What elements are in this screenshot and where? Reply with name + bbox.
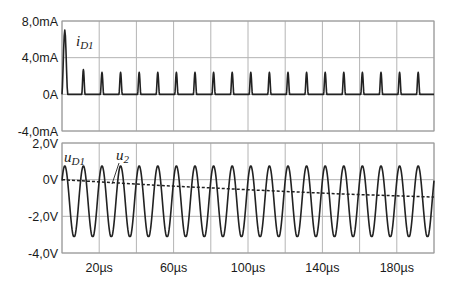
x-tick-label: 180µs bbox=[380, 261, 414, 275]
oscillogram-chart: 8,0mA4,0mA0A-4,0mA2,0V0V-2,0V-4,0V20µs60… bbox=[0, 0, 450, 286]
series-label-u2: u2 bbox=[116, 147, 130, 165]
x-tick-label: 100µs bbox=[231, 261, 265, 275]
y-tick-label: 2,0V bbox=[32, 137, 58, 151]
y-tick-label: 4,0mA bbox=[22, 51, 59, 65]
y-tick-label: 0V bbox=[43, 173, 59, 187]
y-tick-label: -4,0V bbox=[28, 247, 59, 261]
y-tick-label: 8,0mA bbox=[22, 15, 59, 29]
x-tick-label: 140µs bbox=[305, 261, 339, 275]
series-label-iD1: iD1 bbox=[76, 33, 94, 51]
x-tick-label: 60µs bbox=[160, 261, 187, 275]
y-tick-label: 0A bbox=[43, 88, 59, 102]
series-label-uD1: uD1 bbox=[64, 149, 85, 167]
y-tick-label: -2,0V bbox=[28, 210, 59, 224]
current-panel bbox=[62, 21, 434, 131]
x-tick-label: 20µs bbox=[86, 261, 113, 275]
